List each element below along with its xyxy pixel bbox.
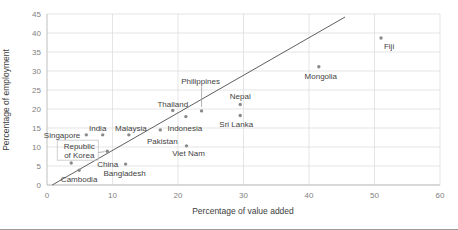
x-axis-title: Percentage of value added	[192, 206, 294, 216]
scatter-chart: CambodiaChinaSingaporeRepublicof KoreaIn…	[0, 0, 458, 230]
point-label: Pakistan	[147, 137, 178, 146]
point-label: Bangladesh	[103, 169, 145, 178]
tick-labels: 0510152025303540450102030405060	[32, 10, 445, 201]
data-point	[106, 149, 109, 152]
y-tick-label: 15	[32, 124, 41, 133]
data-point	[239, 114, 242, 117]
y-tick-label: 45	[32, 10, 41, 19]
point-label: India	[89, 124, 107, 133]
x-tick-label: 40	[305, 191, 314, 200]
point-label: Nepal	[230, 92, 251, 101]
point-label: Singapore	[44, 131, 81, 140]
y-axis-title: Percentage of employment	[1, 49, 11, 151]
data-point	[185, 144, 188, 147]
point-label: Cambodia	[61, 175, 98, 184]
point-label: Mongolia	[305, 72, 338, 81]
data-point	[159, 128, 162, 131]
data-point	[379, 36, 382, 39]
x-tick-label: 10	[108, 191, 117, 200]
y-tick-label: 25	[32, 86, 41, 95]
x-tick-label: 20	[174, 191, 183, 200]
data-point	[70, 161, 73, 164]
data-point	[171, 109, 174, 112]
y-tick-label: 5	[37, 162, 42, 171]
x-tick-label: 0	[45, 191, 50, 200]
y-tick-label: 30	[32, 67, 41, 76]
data-point	[85, 133, 88, 136]
y-tick-label: 20	[32, 105, 41, 114]
data-point	[101, 133, 104, 136]
point-label: Fiji	[384, 42, 394, 51]
label-leader-line	[98, 152, 105, 153]
data-point	[317, 65, 320, 68]
data-point	[124, 162, 127, 165]
point-label: Philippines	[181, 77, 220, 86]
point-label: Thailand	[157, 100, 188, 109]
x-tick-label: 60	[436, 191, 445, 200]
point-label: Sri Lanka	[219, 120, 253, 129]
x-tick-label: 30	[239, 191, 248, 200]
x-tick-label: 50	[370, 191, 379, 200]
data-point	[184, 115, 187, 118]
data-points-group: CambodiaChinaSingaporeRepublicof KoreaIn…	[44, 36, 395, 184]
y-tick-label: 0	[37, 181, 42, 190]
point-label: Viet Nam	[172, 149, 205, 158]
data-point	[239, 103, 242, 106]
point-label: Malaysia	[115, 124, 147, 133]
point-label: of Korea	[64, 151, 95, 160]
data-point	[77, 168, 80, 171]
point-label: Republic	[64, 142, 95, 151]
point-label: Indonesia	[168, 124, 203, 133]
data-point	[127, 133, 130, 136]
y-tick-label: 40	[32, 29, 41, 38]
chart-canvas: CambodiaChinaSingaporeRepublicof KoreaIn…	[0, 0, 458, 230]
y-tick-label: 10	[32, 143, 41, 152]
y-tick-label: 35	[32, 48, 41, 57]
point-label: China	[97, 160, 118, 169]
data-point	[200, 109, 203, 112]
